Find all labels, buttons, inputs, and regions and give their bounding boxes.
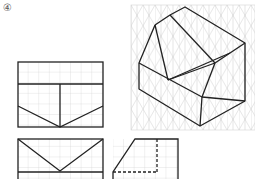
isometric-grid (131, 5, 255, 130)
front-view (18, 62, 103, 127)
top-view (18, 139, 103, 179)
side-view (113, 139, 178, 179)
orthographic-drawing (0, 0, 255, 179)
isometric-view (131, 5, 255, 130)
